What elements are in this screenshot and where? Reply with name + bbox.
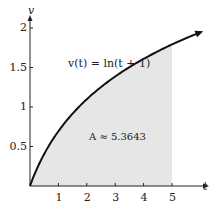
y-tick-label: 2 [20, 22, 27, 33]
plot-area [0, 0, 217, 208]
x-axis-label: t [203, 181, 207, 192]
x-tick-label: 3 [112, 192, 119, 203]
x-tick-label: 2 [84, 192, 91, 203]
y-tick-label: 1 [20, 101, 27, 112]
y-tick-label: 0.5 [10, 141, 28, 152]
y-tick-label: 1.5 [10, 62, 28, 73]
curve-arrow-icon [195, 31, 204, 38]
function-label: v(t) = ln(t + 1) [68, 58, 150, 69]
area-annotation: A ≈ 5.3643 [89, 132, 146, 142]
x-tick-label: 5 [169, 192, 176, 203]
x-tick-label: 1 [55, 192, 62, 203]
y-axis-label: v [28, 5, 34, 16]
x-tick-label: 4 [141, 192, 148, 203]
